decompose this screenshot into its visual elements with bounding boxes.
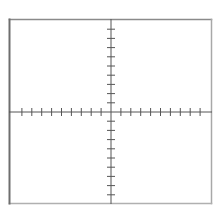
coordinate-grid-canvas	[0, 0, 223, 214]
cartesian-axes-diagram	[0, 0, 223, 214]
